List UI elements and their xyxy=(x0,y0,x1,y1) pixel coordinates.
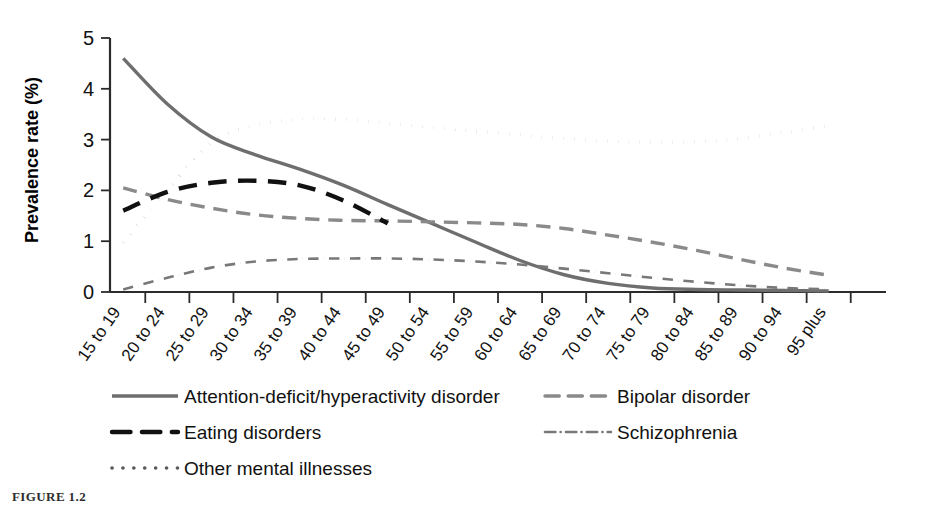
x-tick-label: 70 to 74 xyxy=(559,303,610,364)
x-tick-label: 75 to 79 xyxy=(603,303,654,364)
x-axis-labels: 15 to 1920 to 2425 to 2930 to 3435 to 39… xyxy=(74,303,830,364)
legend-label: Schizophrenia xyxy=(617,422,738,443)
figure-caption: FIGURE 1.2 xyxy=(12,489,86,505)
x-tick-label: 90 to 94 xyxy=(735,303,786,364)
x-tick-label: 95 plus xyxy=(783,303,830,359)
y-axis-ticks: 012345 xyxy=(83,27,110,303)
legend-label: Bipolar disorder xyxy=(617,386,751,407)
legend-label: Attention-deficit/hyperactivity disorder xyxy=(184,386,500,407)
legend-label: Other mental illnesses xyxy=(184,458,372,479)
y-tick-label: 1 xyxy=(83,230,94,252)
x-tick-label: 60 to 64 xyxy=(471,303,522,364)
y-tick-label: 3 xyxy=(83,129,94,151)
x-tick-label: 55 to 59 xyxy=(426,303,477,364)
x-axis-ticks xyxy=(145,292,850,303)
y-axis-title: Prevalence rate (%) xyxy=(22,77,42,243)
y-tick-label: 2 xyxy=(83,179,94,201)
x-tick-label: 40 to 44 xyxy=(294,303,345,364)
y-tick-label: 0 xyxy=(83,281,94,303)
x-tick-label: 30 to 34 xyxy=(206,303,257,364)
x-tick-label: 85 to 89 xyxy=(691,303,742,364)
x-tick-label: 20 to 24 xyxy=(118,303,169,364)
y-tick-label: 5 xyxy=(83,27,94,49)
x-tick-label: 45 to 49 xyxy=(338,303,389,364)
y-tick-label: 4 xyxy=(83,78,94,100)
series-line xyxy=(123,258,828,289)
data-series-group xyxy=(123,58,828,291)
x-tick-label: 50 to 54 xyxy=(382,303,433,364)
x-tick-label: 35 to 39 xyxy=(250,303,301,364)
x-tick-label: 25 to 29 xyxy=(162,303,213,364)
x-tick-label: 15 to 19 xyxy=(74,303,125,364)
legend-label: Eating disorders xyxy=(184,422,321,443)
chart-legend: Attention-deficit/hyperactivity disorder… xyxy=(112,386,751,479)
x-tick-label: 80 to 84 xyxy=(647,303,698,364)
x-tick-label: 65 to 69 xyxy=(515,303,566,364)
